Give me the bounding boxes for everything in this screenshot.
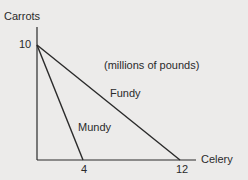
mundy-line: [37, 45, 83, 160]
units-annotation: (millions of pounds): [104, 59, 199, 71]
fundy-label: Fundy: [110, 87, 141, 99]
y-axis-label: Carrots: [4, 10, 40, 22]
mundy-label: Mundy: [78, 121, 111, 133]
x-tick-12: 12: [176, 163, 188, 175]
x-axis-label: Celery: [201, 153, 233, 165]
y-tick-10: 10: [19, 38, 31, 50]
x-tick-4: 4: [81, 163, 87, 175]
